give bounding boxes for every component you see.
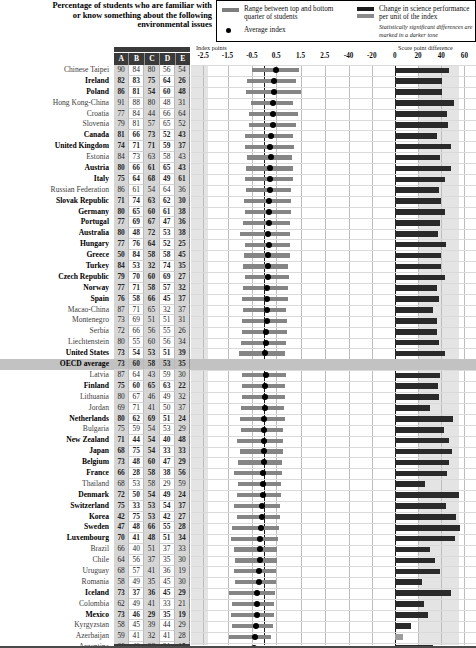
cell-b: 81 <box>129 119 144 130</box>
cell-c: 37 <box>144 555 159 566</box>
table-row: Kyrgyzstan5845394429 <box>0 620 476 631</box>
cell-d: 58 <box>160 250 175 261</box>
cell-e: 32 <box>175 392 190 403</box>
cell-c: 57 <box>144 119 159 130</box>
table-row: Austria8066616543 <box>0 163 476 174</box>
country-label: Russian Federation <box>0 185 112 196</box>
cell-c: 32 <box>144 261 159 272</box>
table-row: France6628583856 <box>0 468 476 479</box>
legend-column-right: Change in science performance per unit o… <box>357 5 475 39</box>
country-label: Bulgaria <box>0 424 112 435</box>
cell-d: 58 <box>160 152 175 163</box>
cell-d: 60 <box>160 87 175 98</box>
cell-e: 59 <box>175 479 190 490</box>
cell-c: 54 <box>144 446 159 457</box>
cell-a: 80 <box>114 337 129 348</box>
cell-d: 33 <box>160 599 175 610</box>
country-label: Italy <box>0 174 112 185</box>
value-cells: 7174636230 <box>114 196 190 207</box>
value-cells: 8771653237 <box>114 305 190 316</box>
country-label: Japan <box>0 446 112 457</box>
legend-column-left: Range between top and bottom quarter of … <box>222 5 350 38</box>
cell-b: 41 <box>129 533 144 544</box>
cell-c: 58 <box>144 468 159 479</box>
cell-c: 29 <box>144 610 159 621</box>
country-label: Macao-China <box>0 305 112 316</box>
table-row: United Kingdom7471715937 <box>0 141 476 152</box>
cell-c: 32 <box>144 631 159 642</box>
cell-c: 39 <box>144 620 159 631</box>
cell-b: 66 <box>129 163 144 174</box>
cell-d: 56 <box>160 65 175 76</box>
table-row: Russian Federation8661546436 <box>0 185 476 196</box>
country-label: United States <box>0 348 112 359</box>
cell-c: 73 <box>144 130 159 141</box>
cell-a: 75 <box>114 424 129 435</box>
cell-e: 27 <box>175 272 190 283</box>
cell-d: 40 <box>160 435 175 446</box>
cell-e: 28 <box>175 522 190 533</box>
value-cells: 4748665528 <box>114 522 190 533</box>
cell-e: 29 <box>175 424 190 435</box>
cell-a: 77 <box>114 283 129 294</box>
legend-item-average: Average index <box>222 26 350 34</box>
value-cells: 7360585335 <box>114 359 190 370</box>
country-label: Switzerland <box>0 501 112 512</box>
table-row: Serbia7266565526 <box>0 326 476 337</box>
table-row: Croatia7784446664 <box>0 109 476 120</box>
cell-d: 53 <box>160 424 175 435</box>
cell-b: 65 <box>129 207 144 218</box>
table-row: Norway7771585732 <box>0 283 476 294</box>
country-label: Uruguay <box>0 566 112 577</box>
value-cells: 7769674736 <box>114 217 190 228</box>
cell-a: 90 <box>114 65 129 76</box>
legend-range-label: Range between top and bottom quarter of … <box>244 5 350 21</box>
cell-e: 61 <box>175 174 190 185</box>
cell-c: 80 <box>144 98 159 109</box>
value-cells: 7348604729 <box>114 457 190 468</box>
cell-d: 44 <box>160 620 175 631</box>
value-cells: 7250544924 <box>114 490 190 501</box>
table-row: New Zealand7144544048 <box>0 435 476 446</box>
table-row: Czech Republic7970606927 <box>0 272 476 283</box>
country-label: Slovak Republic <box>0 196 112 207</box>
table-row: Jordan6971415037 <box>0 403 476 414</box>
cell-a: 73 <box>114 588 129 599</box>
cell-a: 62 <box>114 599 129 610</box>
cell-e: 21 <box>175 599 190 610</box>
cell-d: 48 <box>160 98 175 109</box>
cell-e: 37 <box>175 403 190 414</box>
cell-d: 63 <box>160 381 175 392</box>
cell-d: 59 <box>160 370 175 381</box>
value-cells: 9188804831 <box>114 98 190 109</box>
cell-d: 49 <box>160 490 175 501</box>
table-row: Hungary7776645225 <box>0 239 476 250</box>
country-label: Mexico <box>0 610 112 621</box>
cell-e: 43 <box>175 152 190 163</box>
value-cells: 7533535437 <box>114 501 190 512</box>
chart-rows: Chinese Taipei9084805654Ireland828375642… <box>0 65 476 648</box>
country-label: Ireland <box>0 76 112 87</box>
table-header-cell-e: E <box>176 53 190 65</box>
index-tick--2.5: -2.5 <box>197 52 208 60</box>
table-row: OECD average7360585335 <box>0 359 476 370</box>
value-cells: 5084585845 <box>114 250 190 261</box>
table-row: Hong Kong-China9188804831 <box>0 98 476 109</box>
value-cells: 6456373530 <box>114 555 190 566</box>
cell-b: 28 <box>129 468 144 479</box>
table-row: Canada8166735243 <box>0 130 476 141</box>
value-cells: 7776645225 <box>114 239 190 250</box>
country-label: OECD average <box>0 359 112 370</box>
cell-e: 38 <box>175 207 190 218</box>
table-row: Latvia8764435930 <box>0 370 476 381</box>
table-row: Azerbaijan5941324128 <box>0 631 476 642</box>
cell-e: 30 <box>175 577 190 588</box>
table-row: Denmark7250544924 <box>0 490 476 501</box>
table-header-cell-a: A <box>114 53 129 65</box>
value-cells: 6640513733 <box>114 544 190 555</box>
cell-d: 42 <box>160 512 175 523</box>
cell-c: 66 <box>144 294 159 305</box>
table-row: Poland8681546048 <box>0 87 476 98</box>
country-label: Azerbaijan <box>0 631 112 642</box>
cell-e: 39 <box>175 348 190 359</box>
